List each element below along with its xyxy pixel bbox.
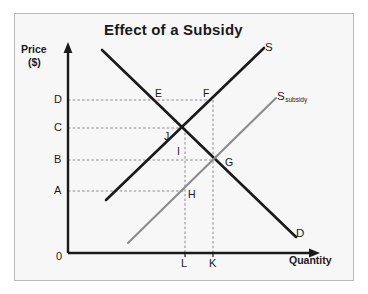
supply-curve-label: S [265,42,273,54]
point-label-I: I [177,146,180,157]
y-tick-label-D: D [54,94,62,105]
supply-subsidy-curve-label: Ssubsidy [277,91,307,103]
supply-subsidy-curve [128,98,276,243]
x-axis-label-quantity: Quantity [289,255,332,266]
supply-subsidy-subscript: subsidy [285,96,307,103]
supply-subsidy-base: S [277,90,285,102]
y-tick-label-B: B [54,154,61,165]
x-tick-label-L: L [181,258,187,269]
y-axis-arrow [64,42,73,53]
y-tick-label-C: C [54,122,62,133]
point-label-H: H [188,189,196,200]
point-label-J: J [164,131,169,142]
origin-label: 0 [56,251,62,262]
demand-curve [102,50,296,237]
y-axis-label-units: ($) [28,57,41,68]
y-tick-label-A: A [54,185,61,196]
y-axis-label-price: Price [21,44,47,55]
point-label-F: F [203,88,209,99]
point-label-E: E [155,88,162,99]
demand-curve-label: D [296,228,304,240]
point-label-G: G [225,157,233,168]
x-tick-label-K: K [209,258,216,269]
subsidy-diagram-figure: Effect of a Subsidy Price ($) Quantity 0… [0,0,368,294]
page-title: Effect of a Subsidy [104,22,243,37]
